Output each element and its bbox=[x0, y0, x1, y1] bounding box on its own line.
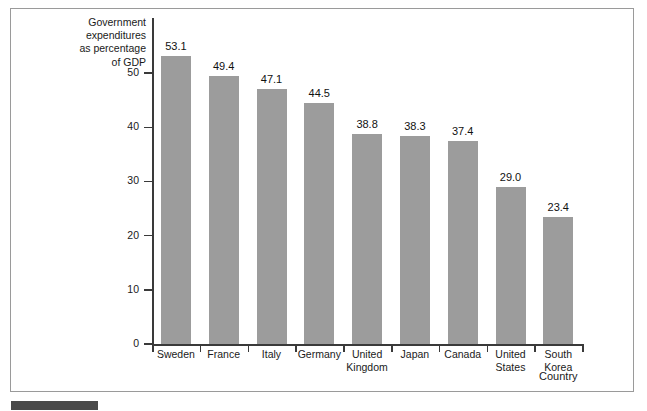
bar-value-label: 37.4 bbox=[433, 125, 493, 137]
bar bbox=[304, 103, 334, 344]
caption-bar bbox=[11, 401, 98, 410]
x-axis-title: Country bbox=[518, 370, 598, 382]
bar bbox=[543, 217, 573, 344]
bar bbox=[161, 56, 191, 344]
bar bbox=[257, 89, 287, 344]
bar bbox=[209, 76, 239, 344]
bar bbox=[496, 187, 526, 344]
bar-value-label: 23.4 bbox=[528, 201, 588, 213]
bar-value-label: 49.4 bbox=[194, 60, 254, 72]
bar-value-label: 44.5 bbox=[289, 87, 349, 99]
bar-value-label: 53.1 bbox=[146, 40, 206, 52]
bar bbox=[448, 141, 478, 344]
bars-layer bbox=[0, 0, 647, 344]
bar bbox=[400, 136, 430, 344]
bar bbox=[352, 134, 382, 344]
x-axis-line bbox=[152, 344, 583, 346]
bar-value-label: 29.0 bbox=[481, 171, 541, 183]
bar-value-label: 47.1 bbox=[242, 73, 302, 85]
figure-root: Government expenditures as percentage of… bbox=[0, 0, 647, 411]
